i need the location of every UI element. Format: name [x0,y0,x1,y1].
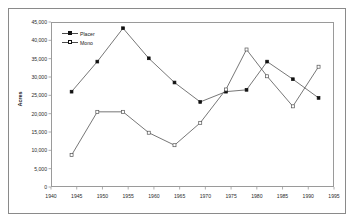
data-point-marker [199,101,202,104]
data-point-marker [266,60,269,63]
data-point-marker [122,110,125,113]
data-point-marker [291,78,294,81]
data-point-marker [122,27,125,30]
data-point-marker [291,105,294,108]
series-mono [70,48,320,157]
data-point-marker [173,81,176,84]
legend-item-placer[interactable]: Placer [62,29,108,38]
data-point-marker [70,154,73,157]
data-point-marker [147,131,150,134]
data-point-marker [224,88,227,91]
data-point-marker [70,90,73,93]
data-point-marker [317,97,320,100]
data-point-marker [266,75,269,78]
chart-figure: Acres 05,00010,00015,00020,00025,00030,0… [0,0,355,224]
open-square-marker-icon [68,40,72,44]
data-point-marker [245,48,248,51]
data-point-marker [245,88,248,91]
filled-square-marker-icon [68,31,72,35]
data-point-marker [199,121,202,124]
series-line-placer [72,28,319,102]
chart-plot-layer [0,0,355,224]
legend-label-mono: Mono [80,40,93,46]
series-line-mono [72,50,319,156]
data-point-marker [96,60,99,63]
legend-swatch-placer [62,29,78,38]
data-point-marker [173,144,176,147]
legend-label-placer: Placer [80,31,95,37]
data-point-marker [147,57,150,60]
data-point-marker [317,65,320,68]
chart-legend: Placer Mono [62,29,108,47]
legend-item-mono[interactable]: Mono [62,38,108,47]
data-point-marker [96,110,99,113]
legend-swatch-mono [62,38,78,47]
